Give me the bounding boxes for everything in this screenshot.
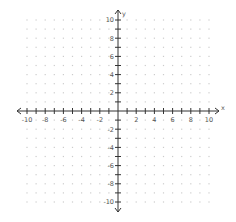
grid-dot (190, 156, 191, 157)
grid-dot (45, 38, 46, 39)
grid-dot (145, 192, 146, 193)
coordinate-plane-svg: -10-8-6-4-2246810 108642-2-4-6-8-10 x y (0, 0, 236, 222)
grid-dot (181, 192, 182, 193)
grid-dot (54, 192, 55, 193)
grid-dot (127, 65, 128, 66)
grid-dot (72, 56, 73, 57)
grid-dot (36, 65, 37, 66)
grid-dot (163, 19, 164, 20)
grid-dot (145, 92, 146, 93)
grid-dot (54, 165, 55, 166)
grid-dot (208, 138, 209, 139)
grid-dot (54, 92, 55, 93)
grid-dot (45, 47, 46, 48)
grid-dot (90, 147, 91, 148)
grid-dot (199, 129, 200, 130)
grid-dot (190, 38, 191, 39)
grid-dot (72, 38, 73, 39)
grid-dot (72, 19, 73, 20)
grid-dot (199, 183, 200, 184)
grid-dot (36, 138, 37, 139)
grid-dot (81, 74, 82, 75)
grid-dot (181, 83, 182, 84)
grid-dot (145, 165, 146, 166)
grid-dot (99, 192, 100, 193)
grid-dot (163, 174, 164, 175)
grid-dot (172, 92, 173, 93)
grid-dot (190, 192, 191, 193)
grid-dot (26, 129, 27, 130)
grid-dot (72, 174, 73, 175)
grid-dot (26, 156, 27, 157)
grid-dot (54, 65, 55, 66)
grid-dot (81, 92, 82, 93)
grid-dot (72, 183, 73, 184)
grid-dot (136, 101, 137, 102)
grid-dot (181, 165, 182, 166)
grid-dot (99, 92, 100, 93)
grid-dot (54, 147, 55, 148)
grid-dot (208, 74, 209, 75)
grid-dot (145, 38, 146, 39)
grid-dot (90, 201, 91, 202)
x-tick-label: -2 (97, 116, 103, 124)
grid-dot (136, 47, 137, 48)
grid-dot (63, 129, 64, 130)
grid-dot (181, 183, 182, 184)
grid-dot (72, 92, 73, 93)
x-axis-label: x (221, 104, 225, 112)
grid-dot (36, 101, 37, 102)
grid-dot (190, 92, 191, 93)
grid-dot (72, 156, 73, 157)
grid-dot (81, 183, 82, 184)
grid-dot (45, 201, 46, 202)
grid-dot (172, 174, 173, 175)
grid-dot (172, 74, 173, 75)
grid-dot (90, 101, 91, 102)
grid-dot (181, 147, 182, 148)
grid-dot (108, 174, 109, 175)
grid-dot (154, 174, 155, 175)
grid-dot (45, 83, 46, 84)
grid-dot (108, 29, 109, 30)
grid-dot (26, 165, 27, 166)
grid-dot (199, 147, 200, 148)
grid-dot (208, 192, 209, 193)
grid-dot (63, 47, 64, 48)
grid-dot (54, 129, 55, 130)
grid-dot (90, 83, 91, 84)
grid-dot (81, 101, 82, 102)
grid-dot (145, 183, 146, 184)
grid-dot (136, 156, 137, 157)
grid-dot (108, 156, 109, 157)
grid-dot (72, 65, 73, 66)
grid-dot (181, 138, 182, 139)
grid-dot (45, 101, 46, 102)
grid-dot (172, 192, 173, 193)
grid-dot (208, 38, 209, 39)
grid-dot (208, 83, 209, 84)
grid-dot (163, 56, 164, 57)
grid-dot (154, 65, 155, 66)
grid-dot (90, 192, 91, 193)
grid-dot (145, 138, 146, 139)
grid-dot (199, 29, 200, 30)
x-tick-label: 2 (134, 116, 138, 124)
grid-dot (181, 29, 182, 30)
grid-dot (72, 129, 73, 130)
grid-dot (36, 183, 37, 184)
grid-dot (54, 83, 55, 84)
grid-dot (154, 129, 155, 130)
grid-dot (154, 74, 155, 75)
grid-dot (163, 147, 164, 148)
grid-dot (208, 65, 209, 66)
grid-dot (108, 101, 109, 102)
grid-dot (145, 56, 146, 57)
grid-dot (63, 29, 64, 30)
grid-dot (36, 192, 37, 193)
grid-dot (154, 92, 155, 93)
grid-dot (163, 101, 164, 102)
grid-dot (190, 201, 191, 202)
grid-dot (36, 92, 37, 93)
grid-dot (145, 156, 146, 157)
